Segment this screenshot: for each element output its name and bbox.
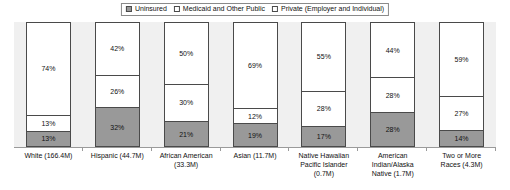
bar-segment-private: 59% [439,22,484,96]
category-label-line: African American [153,151,220,160]
stacked-bar: 50%30%21% [164,22,209,147]
bar-segment-medicaid: 28% [301,91,346,126]
bar-segment-value: 13% [41,120,55,127]
bar-segment-medicaid: 28% [370,77,415,112]
bar-segment-medicaid: 27% [439,96,484,130]
category-label: Two or MoreRaces (4.3M) [427,151,496,189]
bar-segment-value: 17% [317,133,331,140]
bar-segment-value: 30% [179,99,193,106]
bar-segment-value: 28% [317,105,331,112]
bar-segment-value: 19% [248,132,262,139]
bar-group: 55%28%17% [289,22,358,147]
category-label-line: Pacific Islander [290,160,357,169]
legend-label-private: Private (Employer and Individual) [281,5,384,13]
bar-segment-uninsured: 19% [233,123,278,147]
bar-segment-value: 13% [41,135,55,142]
stacked-bar: 55%28%17% [301,22,346,147]
bar-segment-value: 27% [455,110,469,117]
bar-segment-uninsured: 13% [26,131,71,147]
bars-layer: 74%13%13%42%26%32%50%30%21%69%12%19%55%2… [14,22,496,147]
bar-segment-private: 74% [26,22,71,115]
bar-segment-uninsured: 14% [439,130,484,148]
bar-segment-medicaid: 12% [233,108,278,123]
category-label-line: (0.7M) [290,169,357,178]
category-label: African American(33.3M) [152,151,221,189]
bar-segment-medicaid: 26% [95,75,140,108]
category-label: Asian (11.7M) [221,151,290,189]
bar-segment-value: 32% [110,124,124,131]
legend-item-private: Private (Employer and Individual) [272,5,384,13]
category-label-line: (33.3M) [153,160,220,169]
legend-label-uninsured: Uninsured [135,5,167,13]
bar-segment-value: 69% [248,62,262,69]
stacked-bar: 44%28%28% [370,22,415,147]
bar-segment-value: 74% [41,65,55,72]
bar-segment-value: 26% [110,88,124,95]
bar-group: 50%30%21% [152,22,221,147]
category-label-line: Asian (11.7M) [222,151,289,160]
legend-swatch-uninsured-icon [126,6,132,12]
bar-segment-private: 50% [164,22,209,84]
category-label: White (166.4M) [14,151,83,189]
legend-swatch-private-icon [272,6,278,12]
category-label-line: Races (4.3M) [428,160,495,169]
bar-group: 59%27%14% [427,22,496,147]
legend-swatch-medicaid-icon [174,6,180,12]
bar-segment-value: 28% [386,126,400,133]
bar-segment-value: 44% [386,47,400,54]
bar-segment-private: 42% [95,22,140,75]
bar-segment-medicaid: 30% [164,84,209,121]
stacked-bar: 74%13%13% [26,22,71,147]
chart-legend: Uninsured Medicaid and Other Public Priv… [121,3,389,16]
bar-segment-value: 14% [455,135,469,142]
bar-segment-uninsured: 17% [301,126,346,147]
bar-segment-private: 69% [233,22,278,108]
bar-segment-private: 55% [301,22,346,91]
bar-segment-value: 28% [386,92,400,99]
category-label-line: Two or More [428,151,495,160]
category-label-line: Hispanic (44.7M) [84,151,151,160]
x-axis-labels: White (166.4M)Hispanic (44.7M)African Am… [14,151,496,189]
bar-group: 42%26%32% [83,22,152,147]
legend-item-medicaid: Medicaid and Other Public [174,5,265,13]
bar-segment-medicaid: 13% [26,115,71,131]
bar-segment-value: 21% [179,131,193,138]
bar-group: 74%13%13% [14,22,83,147]
stacked-bar-chart: Uninsured Medicaid and Other Public Priv… [0,0,510,190]
bar-segment-uninsured: 28% [370,112,415,147]
category-label: Native HawaiianPacific Islander(0.7M) [289,151,358,189]
category-label-line: White (166.4M) [15,151,82,160]
stacked-bar: 42%26%32% [95,22,140,147]
legend-label-medicaid: Medicaid and Other Public [183,5,265,13]
bar-segment-value: 55% [317,53,331,60]
bar-segment-value: 59% [455,56,469,63]
category-label-line: Native (1.7M) [359,169,426,178]
bar-segment-value: 42% [110,45,124,52]
bar-segment-uninsured: 21% [164,121,209,147]
x-axis-line [14,147,496,148]
stacked-bar: 69%12%19% [233,22,278,147]
category-label: Hispanic (44.7M) [83,151,152,189]
category-label-line: Indian/Alaska [359,160,426,169]
category-label-line: American [359,151,426,160]
legend-item-uninsured: Uninsured [126,5,167,13]
bar-segment-private: 44% [370,22,415,77]
category-label-line: Native Hawaiian [290,151,357,160]
stacked-bar: 59%27%14% [439,22,484,147]
bar-group: 44%28%28% [358,22,427,147]
bar-segment-value: 50% [179,50,193,57]
bar-segment-value: 12% [248,113,262,120]
category-label: AmericanIndian/AlaskaNative (1.7M) [358,151,427,189]
bar-group: 69%12%19% [221,22,290,147]
bar-segment-uninsured: 32% [95,107,140,147]
